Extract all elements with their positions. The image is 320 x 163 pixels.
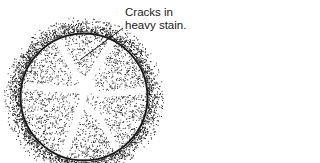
- annotation-line-1: Cracks in: [125, 6, 186, 19]
- annotation-label: Cracks in heavy stain.: [125, 6, 186, 32]
- annotation-line-2: heavy stain.: [125, 19, 186, 32]
